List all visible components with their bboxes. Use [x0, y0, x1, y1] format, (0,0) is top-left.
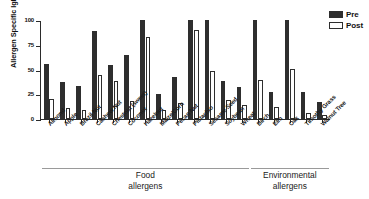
group-label-line: allergens: [42, 181, 249, 192]
legend-swatch-pre-icon: [329, 11, 343, 18]
group-label-line: Food: [42, 170, 249, 181]
bar-chart: Allergen Specific IgE, kU/L 0255075100 A…: [0, 0, 369, 199]
legend-label-pre: Pre: [346, 10, 359, 19]
bar-pre: [44, 64, 49, 119]
group-label-line: allergens: [251, 181, 329, 192]
legend-item-pre: Pre: [329, 10, 363, 19]
y-axis-tick-label: 75: [28, 42, 34, 48]
bar-post: [146, 37, 151, 119]
legend: Pre Post: [329, 10, 363, 30]
y-axis-tick-label: 50: [28, 67, 34, 73]
bar-pre: [285, 20, 290, 119]
group-labels: FoodallergensEnvironmentalallergens: [0, 170, 369, 198]
bars-layer: [41, 20, 330, 119]
bar-pre: [253, 20, 258, 119]
group-rule: [42, 168, 249, 169]
group-rule: [251, 168, 329, 169]
legend-item-post: Post: [329, 21, 363, 30]
bar-pre: [301, 92, 306, 119]
y-axis-tick-label: 100: [25, 17, 34, 23]
category-labels: AlmondAppleBrazil NutCashew NutChestnut …: [40, 122, 332, 166]
group-label-line: Environmental: [251, 170, 329, 181]
bar-post: [290, 69, 295, 119]
y-axis-title: Allergen Specific IgE, kU/L: [9, 0, 18, 78]
group-label: Environmentalallergens: [251, 170, 329, 191]
bar-post: [98, 75, 103, 119]
legend-label-post: Post: [346, 21, 363, 30]
legend-swatch-post-icon: [329, 22, 343, 29]
y-axis-tick-label: 0: [31, 116, 34, 122]
group-label: Foodallergens: [42, 170, 249, 191]
y-axis-tick-label: 25: [28, 91, 34, 97]
